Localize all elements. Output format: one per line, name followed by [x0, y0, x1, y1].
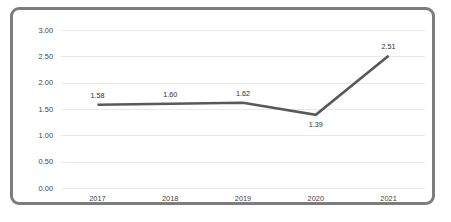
- y-axis-tick-label: 0.00: [39, 184, 53, 193]
- y-axis-tick-labels: 3.002.502.001.501.000.500.00: [39, 26, 53, 193]
- x-axis-tick-label: 2019: [235, 194, 251, 202]
- data-point-label: 2.51: [382, 42, 396, 51]
- data-point-label: 1.58: [90, 91, 104, 100]
- y-axis-tick-label: 3.00: [39, 26, 53, 35]
- data-point-label: 1.60: [163, 90, 177, 99]
- y-axis-tick-label: 2.00: [39, 78, 53, 87]
- y-axis-tick-label: 1.50: [39, 105, 53, 114]
- y-axis-tick-label: 1.00: [39, 131, 53, 140]
- series-line: [97, 56, 388, 115]
- data-point-label: 1.39: [309, 120, 323, 129]
- line-chart: 3.002.502.001.501.000.500.00 1.581.601.6…: [13, 10, 432, 202]
- gridlines: [61, 31, 425, 189]
- x-axis-tick-label: 2018: [162, 194, 178, 202]
- chart-frame: 3.002.502.001.501.000.500.00 1.581.601.6…: [10, 7, 435, 205]
- y-axis-tick-label: 0.50: [39, 157, 53, 166]
- x-axis-tick-label: 2021: [380, 194, 396, 202]
- x-axis-tick-label: 2017: [89, 194, 105, 202]
- y-axis-tick-label: 2.50: [39, 52, 53, 61]
- data-point-label: 1.62: [236, 89, 250, 98]
- x-axis-tick-label: 2020: [308, 194, 324, 202]
- x-axis-tick-labels: 20172018201920202021: [89, 194, 397, 202]
- data-series: [97, 56, 388, 115]
